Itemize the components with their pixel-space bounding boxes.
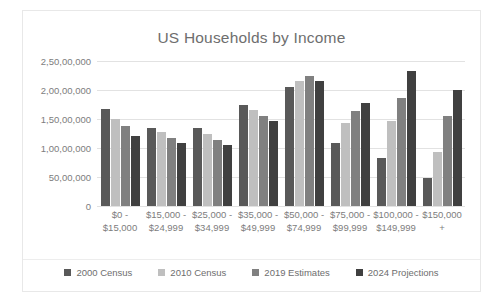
legend-label: 2010 Census — [170, 267, 226, 278]
bar[interactable] — [341, 123, 350, 206]
bar[interactable] — [407, 71, 416, 206]
legend-swatch-icon — [64, 269, 71, 276]
bar-group — [189, 61, 235, 206]
chart-card: US Households by Income 050,00,0001,00,0… — [22, 10, 481, 292]
bar[interactable] — [423, 178, 432, 206]
bar[interactable] — [259, 116, 268, 206]
bar[interactable] — [239, 105, 248, 207]
bar-groups — [97, 61, 465, 206]
bar-group — [235, 61, 281, 206]
x-axis-category-label: $0 - $15,000 — [97, 208, 143, 234]
bar[interactable] — [443, 116, 452, 206]
bar[interactable] — [101, 109, 110, 206]
bar[interactable] — [131, 136, 140, 206]
bar[interactable] — [249, 110, 258, 206]
bar[interactable] — [453, 90, 462, 206]
bar[interactable] — [203, 134, 212, 206]
bar[interactable] — [285, 87, 294, 206]
bar[interactable] — [157, 132, 166, 206]
bar-group — [327, 61, 373, 206]
x-axis-category-label: $150,000 + — [419, 208, 465, 234]
bar[interactable] — [331, 143, 340, 206]
y-axis-tick-label: 2,00,00,000 — [41, 85, 91, 96]
bar-group — [97, 61, 143, 206]
legend-label: 2000 Census — [76, 267, 132, 278]
bar-group — [373, 61, 419, 206]
y-axis-tick-label: 2,50,00,000 — [41, 56, 91, 67]
legend-item[interactable]: 2024 Projections — [356, 267, 439, 278]
bar[interactable] — [377, 158, 386, 206]
legend-swatch-icon — [252, 269, 259, 276]
bar[interactable] — [387, 121, 396, 206]
bar[interactable] — [111, 119, 120, 206]
bar[interactable] — [269, 121, 278, 206]
bar[interactable] — [397, 98, 406, 206]
legend-label: 2024 Projections — [368, 267, 439, 278]
bar[interactable] — [223, 145, 232, 206]
x-axis-category-label: $25,000 - $34,999 — [189, 208, 235, 234]
legend-item[interactable]: 2019 Estimates — [252, 267, 329, 278]
x-axis-category-label: $75,000 - $99,999 — [327, 208, 373, 234]
chart-legend: 2000 Census2010 Census2019 Estimates2024… — [23, 259, 480, 278]
bar[interactable] — [121, 126, 130, 206]
y-axis-tick-label: 1,50,00,000 — [41, 114, 91, 125]
bar-group — [143, 61, 189, 206]
bar[interactable] — [315, 81, 324, 206]
chart-title: US Households by Income — [23, 29, 480, 47]
legend-label: 2019 Estimates — [264, 267, 329, 278]
legend-swatch-icon — [158, 269, 165, 276]
plot-area: 050,00,0001,00,00,0001,50,00,0002,00,00,… — [97, 61, 465, 206]
bar[interactable] — [177, 143, 186, 206]
bar-group — [419, 61, 465, 206]
bar[interactable] — [295, 81, 304, 206]
bar-group — [281, 61, 327, 206]
bar[interactable] — [193, 128, 202, 206]
bar[interactable] — [147, 128, 156, 206]
legend-swatch-icon — [356, 269, 363, 276]
y-axis-tick-label: 1,00,00,000 — [41, 143, 91, 154]
x-axis-labels: $0 - $15,000$15,000 - $24,999$25,000 - $… — [97, 208, 465, 234]
y-axis-tick-label: 50,00,000 — [49, 172, 91, 183]
x-axis-category-label: $50,000 - $74,999 — [281, 208, 327, 234]
bar[interactable] — [361, 103, 370, 206]
legend-item[interactable]: 2010 Census — [158, 267, 226, 278]
bar[interactable] — [351, 111, 360, 206]
bar[interactable] — [167, 138, 176, 206]
y-axis-tick-label: 0 — [86, 201, 91, 212]
bar[interactable] — [433, 152, 442, 206]
bar[interactable] — [305, 76, 314, 206]
gridline: 0 — [97, 206, 465, 207]
legend-item[interactable]: 2000 Census — [64, 267, 132, 278]
bar[interactable] — [213, 140, 222, 206]
x-axis-category-label: $35,000 - $49,999 — [235, 208, 281, 234]
x-axis-category-label: $100,000 - $149,999 — [373, 208, 419, 234]
x-axis-category-label: $15,000 - $24,999 — [143, 208, 189, 234]
